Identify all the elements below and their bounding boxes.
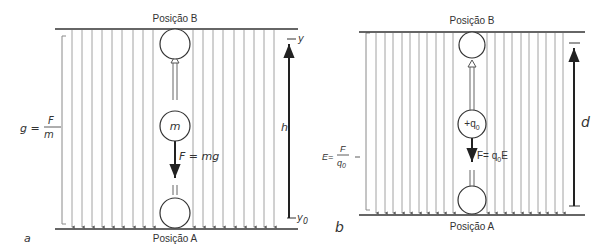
- height-label: h: [281, 121, 288, 134]
- force-label: F= q0E: [477, 150, 508, 163]
- efield-formula-den: q0: [337, 158, 346, 169]
- gravity-formula-den: m: [44, 129, 54, 140]
- efield-formula-lhs: E=: [322, 152, 333, 162]
- gravity-formula-lhs: g =: [20, 122, 40, 135]
- field-diagram: m F = mg y y0 h g = F m Posição B Posiçã…: [0, 0, 608, 252]
- coord-y0-label: y0: [296, 212, 308, 226]
- panel-a: m F = mg y y0 h g = F m Posição B Posiçã…: [20, 13, 308, 245]
- charge-position-b: [459, 32, 485, 58]
- efield-formula-num: F: [340, 144, 346, 154]
- charge-position-a: [458, 186, 486, 214]
- particle-label: m: [170, 120, 181, 133]
- position-a-label: Posição A: [450, 221, 495, 232]
- panel-tag-a: a: [24, 232, 31, 245]
- gravity-formula-num: F: [48, 115, 54, 126]
- panel-b: +q0 F= q0E d E= F q0 Posição B Posição A…: [322, 15, 590, 235]
- particle-position-a: [160, 198, 190, 228]
- position-a-label: Posição A: [153, 233, 198, 244]
- position-b-label: Posição B: [152, 13, 197, 24]
- coord-y-label: y: [297, 33, 305, 44]
- force-label: F = mg: [179, 150, 219, 163]
- position-b-label: Posição B: [449, 15, 494, 26]
- particle-position-b: [160, 29, 190, 59]
- hollow-arrow-up-icon: [468, 60, 476, 67]
- panel-tag-b: b: [335, 219, 344, 235]
- field-region-bracket: [62, 36, 66, 224]
- distance-label: d: [581, 114, 590, 130]
- field-region-bracket: [366, 33, 370, 210]
